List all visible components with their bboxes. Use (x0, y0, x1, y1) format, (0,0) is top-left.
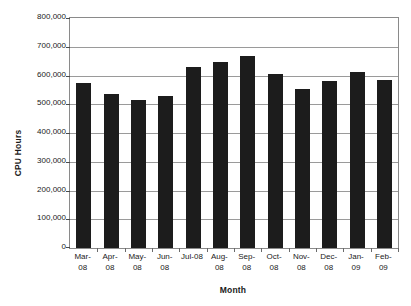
bar (213, 62, 228, 248)
x-axis-tick-label: Feb- 09 (363, 252, 403, 273)
bar (322, 81, 337, 248)
y-axis-tick-label: 200,000 (0, 186, 66, 194)
bar (268, 74, 283, 248)
y-axis-tick-label: 400,000 (0, 128, 66, 136)
y-axis-tick-label: 0 (0, 243, 66, 251)
bar-series (70, 18, 398, 248)
y-axis-tick-label: 800,000 (0, 13, 66, 21)
plot-area (69, 17, 399, 249)
y-axis-tick-label: 600,000 (0, 71, 66, 79)
bar (295, 89, 310, 248)
bar (76, 83, 91, 248)
bar (104, 94, 119, 248)
y-axis-tick-label: 100,000 (0, 214, 66, 222)
bar (350, 72, 365, 248)
x-axis-tick-labels: Mar- 08Apr- 08May- 08Jun- 08Jul-08Aug- 0… (69, 252, 397, 284)
bar-chart: CPU Hours 0100,000200,000300,000400,0005… (0, 0, 411, 306)
y-axis-tick-labels: 0100,000200,000300,000400,000500,000600,… (0, 0, 66, 306)
y-axis-tick-label: 500,000 (0, 99, 66, 107)
bar (186, 67, 201, 248)
x-axis-title: Month (69, 285, 397, 295)
bar (131, 100, 146, 248)
bar (158, 96, 173, 248)
y-axis-tick-label: 300,000 (0, 157, 66, 165)
y-axis-tick-label: 700,000 (0, 42, 66, 50)
bar (377, 80, 392, 248)
bar (240, 56, 255, 248)
